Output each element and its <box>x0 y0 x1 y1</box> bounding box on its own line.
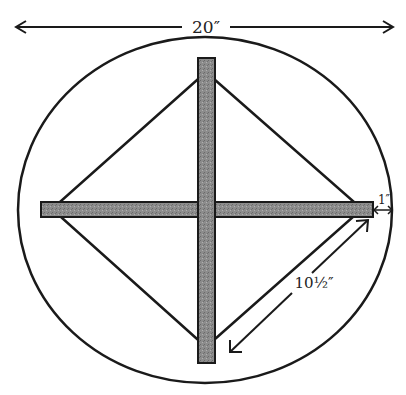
kite-diagram: 20″ 1″ 10½″ <box>0 0 406 395</box>
overhang-dimension <box>374 206 392 214</box>
width-label: 20″ <box>192 17 220 37</box>
overhang-label: 1″ <box>378 193 391 207</box>
diagonal-label: 10½″ <box>294 274 334 292</box>
vertical-stick <box>198 58 215 363</box>
